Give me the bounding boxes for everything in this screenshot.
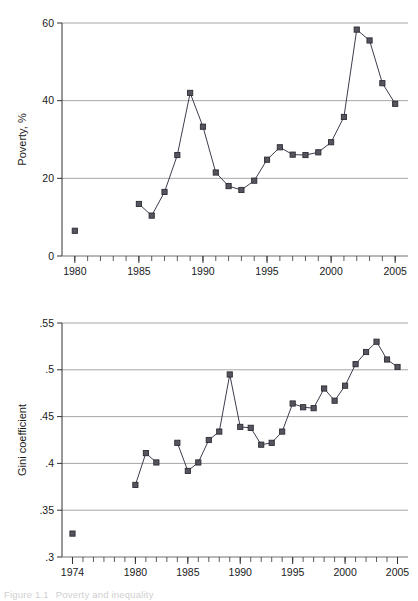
data-point-marker	[149, 213, 154, 218]
data-point-marker	[72, 228, 77, 233]
data-point-marker	[341, 114, 346, 119]
data-point-marker	[143, 451, 148, 456]
series-line	[135, 453, 156, 485]
data-point-marker	[290, 401, 295, 406]
data-point-marker	[380, 81, 385, 86]
poverty-chart-svg: 0204060Poverty, %19801985199019952000200…	[0, 0, 418, 300]
data-point-marker	[238, 424, 243, 429]
data-point-marker	[213, 170, 218, 175]
data-point-marker	[280, 429, 285, 434]
data-point-marker	[367, 38, 372, 43]
data-point-marker	[264, 157, 269, 162]
data-point-marker	[196, 460, 201, 465]
x-axis-tick-label: 2005	[386, 566, 410, 578]
data-point-marker	[259, 442, 264, 447]
data-point-marker	[217, 429, 222, 434]
data-point-marker	[226, 184, 231, 189]
data-point-marker	[311, 406, 316, 411]
data-point-marker	[374, 339, 379, 344]
data-point-marker	[329, 140, 334, 145]
y-axis-tick-label: 60	[42, 17, 54, 29]
data-point-marker	[384, 357, 389, 362]
chart-panel-poverty: 0204060Poverty, %19801985199019952000200…	[0, 0, 418, 300]
data-point-marker	[252, 178, 257, 183]
gini-chart-svg: .3.35.4.45.5.55Gini coefficient197419801…	[0, 300, 418, 585]
data-point-marker	[188, 90, 193, 95]
x-axis-tick-label: 1990	[229, 566, 253, 578]
data-point-marker	[136, 201, 141, 206]
data-point-marker	[393, 101, 398, 106]
data-point-marker	[175, 440, 180, 445]
data-point-marker	[185, 468, 190, 473]
data-point-marker	[277, 145, 282, 150]
data-point-marker	[162, 189, 167, 194]
data-point-marker	[322, 386, 327, 391]
data-point-marker	[395, 364, 400, 369]
data-point-marker	[248, 425, 253, 430]
y-axis-tick-label: 20	[42, 172, 54, 184]
x-axis-tick-label: 1974	[61, 566, 85, 578]
data-point-marker	[332, 398, 337, 403]
y-axis-tick-label: .35	[39, 504, 54, 516]
data-point-marker	[363, 349, 368, 354]
data-point-marker	[227, 372, 232, 377]
figure-poverty-and-inequality: 0204060Poverty, %19801985199019952000200…	[0, 0, 418, 601]
series-line	[139, 30, 395, 216]
data-point-marker	[353, 362, 358, 367]
x-axis-tick-label: 1985	[127, 265, 151, 277]
x-axis-tick-label: 2000	[319, 265, 343, 277]
x-axis-tick-label: 2000	[333, 566, 357, 578]
x-axis-tick-label: 1995	[281, 566, 305, 578]
data-point-marker	[200, 124, 205, 129]
figure-caption-number: Figure 1.1	[4, 589, 49, 600]
data-point-marker	[301, 405, 306, 410]
data-point-marker	[342, 383, 347, 388]
figure-caption: Figure 1.1Poverty and inequality	[4, 589, 414, 601]
y-axis-tick-label: .5	[45, 363, 54, 375]
x-axis-tick-label: 2005	[384, 265, 408, 277]
data-point-marker	[303, 152, 308, 157]
x-axis-tick-label: 1980	[63, 265, 87, 277]
y-axis-tick-label: .45	[39, 410, 54, 422]
data-point-marker	[354, 27, 359, 32]
x-axis-tick-label: 1985	[176, 566, 200, 578]
data-point-marker	[269, 440, 274, 445]
x-axis-tick-label: 1980	[124, 566, 148, 578]
figure-caption-text: Poverty and inequality	[56, 589, 154, 600]
x-axis-tick-label: 1990	[191, 265, 215, 277]
series-line	[177, 342, 397, 471]
data-point-marker	[239, 187, 244, 192]
y-axis-tick-label: .3	[45, 551, 54, 563]
chart-panel-gini: .3.35.4.45.5.55Gini coefficient197419801…	[0, 300, 418, 585]
data-point-marker	[175, 152, 180, 157]
x-axis-tick-label: 1995	[255, 265, 279, 277]
y-axis-tick-label: 40	[42, 94, 54, 106]
y-axis-title: Poverty, %	[16, 113, 28, 166]
data-point-marker	[133, 482, 138, 487]
data-point-marker	[206, 437, 211, 442]
y-axis-tick-label: 0	[48, 250, 54, 262]
data-point-marker	[290, 152, 295, 157]
y-axis-tick-label: .55	[39, 317, 54, 329]
data-point-marker	[316, 150, 321, 155]
y-axis-tick-label: .4	[45, 457, 54, 469]
data-point-marker	[70, 531, 75, 536]
data-point-marker	[154, 460, 159, 465]
y-axis-title: Gini coefficient	[16, 404, 28, 476]
